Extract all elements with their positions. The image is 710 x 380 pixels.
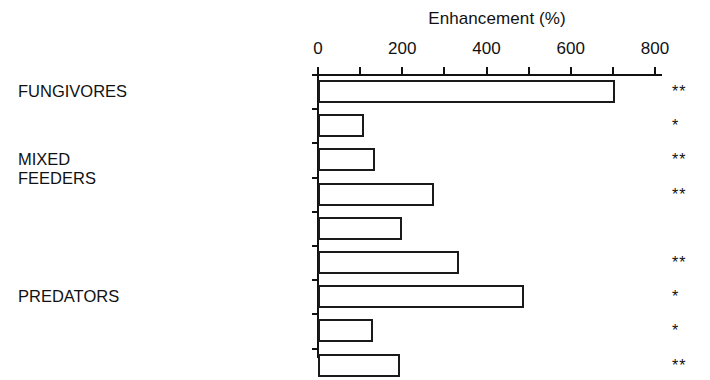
x-tick-label-200: 200 [388,39,416,59]
x-tick-label-800: 800 [641,39,669,59]
y-tick-mark-1 [312,108,318,110]
bar-pseudoscorpions [318,319,373,342]
group-label-line-1: MIXED [18,150,96,169]
group-label-mixed: MIXEDFEEDERS [18,150,96,188]
x-tick-mark-100 [359,67,361,75]
significance-marker-centipedes: * [672,288,679,306]
bar-centipedes [318,285,524,308]
bar-springtails [318,80,615,103]
group-label-line-1: FUNGIVORES [18,82,127,101]
y-tick-mark-8 [312,348,318,350]
x-tick-mark-700 [612,67,614,75]
group-label-line-2: FEEDERS [18,169,96,188]
x-axis-line [317,74,662,76]
y-tick-mark-3 [312,177,318,179]
x-tick-mark-600 [570,67,572,75]
x-tick-mark-500 [528,67,530,75]
bar-fungus-gnats [318,114,364,137]
bar-carabid-beetle-larvae [318,217,402,240]
significance-marker-mites: ** [672,151,686,169]
x-tick-mark-200 [401,67,403,75]
significance-marker-springtails: ** [672,83,686,101]
significance-marker-spiders: ** [672,357,686,375]
x-axis-title: Enhancement (%) [318,9,676,29]
x-tick-mark-800 [654,67,656,75]
x-tick-label-600: 600 [557,39,585,59]
x-tick-mark-400 [486,67,488,75]
plot-area [317,74,662,358]
x-tick-label-0: 0 [313,39,322,59]
y-tick-mark-2 [312,142,318,144]
y-tick-mark-7 [312,313,318,315]
bar-staphylinid-beetles [318,183,434,206]
significance-marker-hymenoptera: ** [672,254,686,272]
group-label-predators: PREDATORS [18,287,119,306]
x-tick-mark-300 [443,67,445,75]
y-tick-mark-6 [312,279,318,281]
bar-hymenoptera [318,251,459,274]
bar-spiders [318,354,400,377]
significance-marker-fungus-gnats: * [672,117,679,135]
bar-mites [318,148,375,171]
y-tick-mark-5 [312,245,318,247]
bar-chart-figure: Enhancement (%) 0200400600800 Springtail… [0,0,710,380]
group-label-fungivores: FUNGIVORES [18,82,127,101]
y-tick-mark-0 [312,74,318,76]
y-tick-mark-4 [312,211,318,213]
x-tick-label-400: 400 [472,39,500,59]
group-label-line-1: PREDATORS [18,287,119,306]
significance-marker-pseudoscorpions: * [672,322,679,340]
significance-marker-staphylinid-beetles: ** [672,186,686,204]
